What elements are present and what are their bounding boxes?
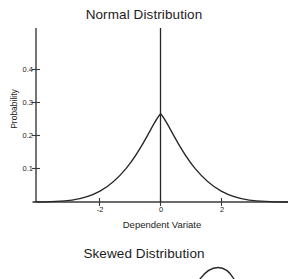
figure-canvas: Normal Distribution Probability 0.4 0.3 … — [0, 0, 288, 279]
skewed-distribution-chart: Skewed Distribution — [0, 238, 288, 279]
skewed-distribution-curve-fragment — [200, 268, 234, 279]
normal-plot-area — [0, 0, 288, 238]
normal-distribution-chart: Normal Distribution Probability 0.4 0.3 … — [0, 0, 288, 238]
skewed-plot-area — [0, 238, 288, 279]
